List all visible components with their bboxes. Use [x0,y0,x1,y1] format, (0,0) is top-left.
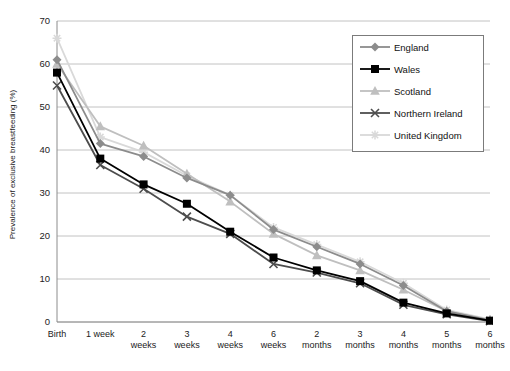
x-axis-tick-label: 3months [336,329,384,350]
x-axis-tick-label: 1 week [76,329,124,340]
legend-label: United Kingdom [392,130,462,141]
data-point-square [371,65,379,73]
data-point-diamond [96,139,105,148]
legend-label: Northern Ireland [392,108,463,119]
data-point-square [399,299,407,307]
x-axis-tick-label: 5months [423,329,471,350]
data-point-diamond [371,43,380,52]
y-axis-tick-label: 30 [22,187,50,198]
marker-triangle [312,250,322,259]
marker-square [270,254,278,262]
marker-diamond [371,43,380,52]
marker-diamond [53,55,62,64]
legend-symbol-square-icon [358,62,392,76]
y-axis-tick-label: 40 [22,144,50,155]
data-point-square [140,180,148,188]
marker-square [140,180,148,188]
legend-symbol-diamond-icon [358,40,392,54]
legend-item-england[interactable]: England [353,36,483,58]
x-axis-tick-label: 4months [379,329,427,350]
data-point-square [443,309,451,317]
y-axis-tick-label: 60 [22,58,50,69]
data-point-square [356,277,364,285]
legend-symbol-cross-icon [358,106,392,120]
x-axis-tick-label: 6weeks [250,329,298,350]
legend-symbol-triangle-icon [358,84,392,98]
legend-label: England [392,42,429,53]
marker-star [371,131,380,140]
x-axis-tick-label: 4weeks [206,329,254,350]
x-axis-tick-label: Birth [33,329,81,340]
marker-star [53,34,62,43]
data-point-square [226,228,234,236]
y-axis-tick-label: 50 [22,101,50,112]
marker-square [399,299,407,307]
marker-square [443,309,451,317]
x-axis-tick-label: 2weeks [120,329,168,350]
marker-cross [183,213,191,221]
legend-item-northern-ireland[interactable]: Northern Ireland [353,102,483,124]
marker-diamond [96,139,105,148]
data-point-cross [183,213,191,221]
data-point-square [270,254,278,262]
legend-symbol-star-icon [358,128,392,142]
data-point-square [313,266,321,274]
data-point-square [96,155,104,163]
legend-item-united-kingdom[interactable]: United Kingdom [353,124,483,146]
x-axis-tick-label: 6months [466,329,510,350]
marker-square [226,228,234,236]
data-point-square [183,200,191,208]
marker-square [96,155,104,163]
y-axis-tick-label: 10 [22,273,50,284]
marker-square [356,277,364,285]
marker-square [371,65,379,73]
x-axis-tick-label: 3weeks [163,329,211,350]
data-point-square [53,69,61,77]
data-point-star [371,131,380,140]
marker-square [486,317,493,325]
legend-label: Scotland [392,86,431,97]
legend-item-scotland[interactable]: Scotland [353,80,483,102]
marker-square [53,69,61,77]
data-point-triangle [312,250,322,259]
data-point-square [486,317,493,325]
chart-legend: EnglandWalesScotlandNorthern IrelandUnit… [352,35,484,152]
y-axis-tick-label: 0 [22,316,50,327]
data-point-star [53,34,62,43]
y-axis-tick-label: 70 [22,15,50,26]
x-axis-tick-label: 2months [293,329,341,350]
marker-square [313,266,321,274]
legend-item-wales[interactable]: Wales [353,58,483,80]
marker-square [183,200,191,208]
legend-label: Wales [392,64,420,75]
y-axis-tick-label: 20 [22,230,50,241]
data-point-diamond [53,55,62,64]
